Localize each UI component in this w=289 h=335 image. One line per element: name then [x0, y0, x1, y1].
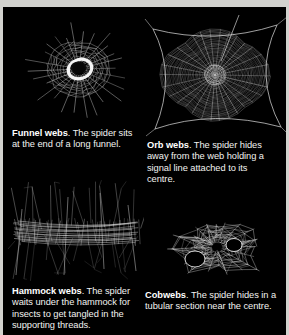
funnel-web-illustration: [17, 17, 142, 125]
cobweb-caption: Cobwebs. The spider hides in a tubular s…: [145, 290, 283, 313]
hammock-web-illustration: [8, 179, 144, 283]
funnel-web-caption: Funnel webs. The spider sits at the end …: [12, 128, 140, 151]
funnel-web-caption-title: Funnel webs: [12, 128, 68, 138]
cobweb-illustration: [155, 201, 283, 291]
cobweb-caption-title: Cobwebs: [145, 290, 186, 300]
orb-web-caption-title: Orb webs: [147, 140, 189, 150]
hammock-web-caption-title: Hammock webs: [12, 286, 82, 296]
hammock-web-caption: Hammock webs. The spider waits under the…: [12, 286, 142, 332]
spider-web-types-figure: Funnel webs. The spider sits at the end …: [0, 0, 289, 335]
orb-web-caption: Orb webs. The spider hides away from the…: [147, 140, 277, 186]
orb-web-illustration: [143, 15, 286, 137]
black-illustration-panel: Funnel webs. The spider sits at the end …: [3, 7, 286, 335]
